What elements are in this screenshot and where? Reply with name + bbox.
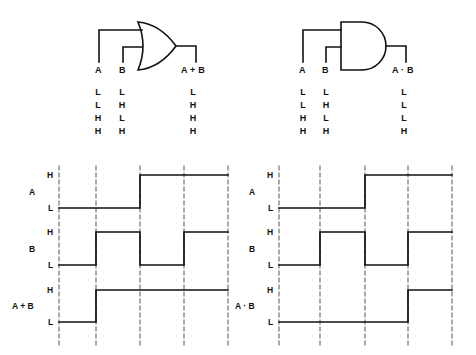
or-truth-col-out: L H H H: [188, 86, 198, 138]
and-truth-col-out: L L L H: [399, 86, 409, 138]
or-trace-a-low-label: L: [48, 204, 53, 213]
or-trace-out-low-label: L: [48, 318, 53, 327]
and-trace-b-name: B: [249, 245, 255, 254]
or-timing-gridlines: [59, 166, 228, 346]
and-trace-b: [279, 232, 452, 265]
and-truth-col-a: L L H H: [298, 86, 308, 138]
or-truth-col-b: L H L H: [117, 86, 127, 138]
and-trace-b-high-label: H: [267, 228, 273, 237]
or-trace-out-name: A + B: [12, 302, 34, 311]
or-trace-b-name: B: [29, 245, 35, 254]
and-output-label: A · B: [392, 66, 414, 75]
and-trace-b-low-label: L: [268, 261, 273, 270]
or-input-a-wire: [99, 30, 142, 62]
and-trace-a-high-label: H: [267, 171, 273, 180]
figure-canvas: A B A + B L L H H L H L H L H H H A B A …: [0, 0, 476, 355]
and-input-a-wire: [303, 30, 341, 62]
or-output-wire: [176, 46, 196, 62]
or-trace-b-high-label: H: [47, 228, 53, 237]
and-truth-col-b: L H L H: [321, 86, 331, 138]
or-trace-b: [59, 232, 228, 265]
and-trace-a-low-label: L: [268, 204, 273, 213]
and-input-b-wire: [326, 47, 341, 62]
and-input-b-label: B: [322, 66, 329, 75]
or-gate-body: [138, 22, 176, 70]
or-gate-symbol: [99, 22, 196, 70]
and-trace-out-low-label: L: [268, 318, 273, 327]
and-trace-out-high-label: H: [267, 286, 273, 295]
and-trace-out-name: A · B: [235, 302, 255, 311]
or-input-b-wire: [123, 47, 142, 62]
or-trace-out-high-label: H: [47, 286, 53, 295]
and-gate-body: [341, 22, 386, 70]
and-input-a-label: A: [299, 66, 306, 75]
or-trace-a-name: A: [29, 188, 35, 197]
or-truth-col-a: L L H H: [93, 86, 103, 138]
and-gate-symbol: [303, 22, 406, 70]
or-trace-b-low-label: L: [48, 261, 53, 270]
or-trace-a-high-label: H: [47, 171, 53, 180]
or-trace-out: [59, 290, 228, 322]
and-trace-a-name: A: [249, 188, 255, 197]
or-input-b-label: B: [119, 66, 126, 75]
and-output-wire: [386, 46, 406, 62]
or-input-a-label: A: [95, 66, 102, 75]
and-trace-a: [279, 175, 452, 208]
or-trace-a: [59, 175, 228, 208]
or-output-label: A + B: [181, 66, 205, 75]
